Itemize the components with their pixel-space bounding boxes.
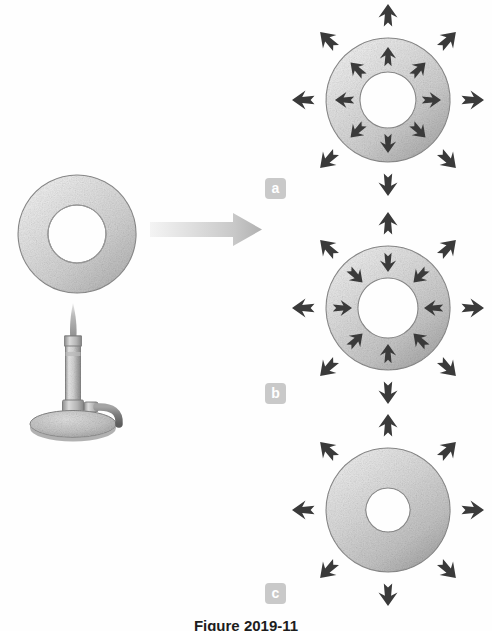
burner-base [30, 411, 116, 438]
panel-c-ring [326, 448, 450, 572]
panel-a-outer-arrows [292, 4, 484, 196]
heating-transition-arrow [150, 213, 262, 246]
metal-ring-unheated [18, 175, 136, 293]
burner-flame [70, 303, 77, 338]
burner-air-band [66, 352, 81, 356]
panel-label-b: b [265, 383, 286, 404]
transition-arrow-shape [150, 213, 262, 246]
bunsen-burner [30, 303, 119, 442]
figure-canvas: a b c Figure 2019-11 [0, 0, 492, 631]
panel-b [292, 212, 484, 404]
diagram-svg [0, 0, 492, 631]
panel-c-outer-arrows [292, 414, 484, 606]
panel-a [292, 4, 484, 196]
panel-label-a: a [265, 178, 286, 199]
ring-body [18, 175, 136, 293]
panel-label-c: c [265, 583, 286, 604]
figure-caption: Figure 2019-11 [0, 617, 492, 631]
panel-c [292, 414, 484, 606]
panel-b-outer-arrows [292, 212, 484, 404]
burner-top-collar [65, 336, 82, 346]
ring-hole-edge [48, 205, 106, 263]
